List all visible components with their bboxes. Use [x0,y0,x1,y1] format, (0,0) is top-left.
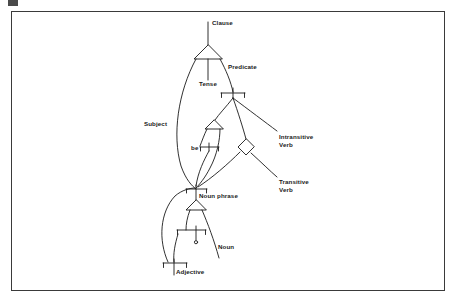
caption-artifact [8,0,18,6]
label-intransitive-verb-line2: Verb [279,141,293,149]
label-adjective: Adjective [176,268,204,276]
figure-root: Clause Predicate Tense Subject be Intran… [0,0,458,302]
label-transitive-verb-line2: Verb [279,186,293,194]
label-clause: Clause [212,19,233,27]
label-subject: Subject [144,120,167,128]
label-noun: Noun [218,243,234,251]
label-transitive-verb-line1: Transitive [279,178,309,186]
label-tense: Tense [199,80,217,88]
label-be: be [191,144,198,152]
label-predicate: Predicate [228,63,257,71]
label-intransitive-verb-line1: Intransitive [279,133,313,141]
label-noun-phrase: Noun phrase [199,192,238,200]
